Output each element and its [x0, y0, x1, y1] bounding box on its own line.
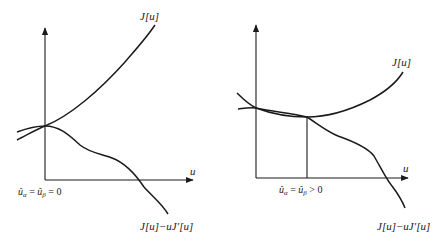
right-panel: J[u] J[u]−uJ′[u] u ûα = ûβ > 0 [237, 25, 430, 232]
left-label-J: J[u] [140, 10, 159, 22]
left-label-u: u [190, 165, 196, 177]
left-label-J-minus-uJprime: J[u]−uJ′[u] [140, 220, 193, 232]
left-curve-J [17, 25, 155, 140]
right-label-J-minus-uJprime: J[u]−uJ′[u] [377, 220, 430, 232]
left-curve-J-minus-uJprime [17, 126, 168, 214]
right-curve-J [237, 72, 403, 117]
diagram-canvas: J[u] J[u]−uJ′[u] u ûα = ûβ = 0 J[u] J[u]… [0, 0, 445, 245]
left-origin-label: ûα = ûβ = 0 [18, 186, 61, 199]
right-origin-label: ûα = ûβ > 0 [279, 184, 322, 197]
right-label-u: u [403, 162, 409, 174]
right-label-J: J[u] [392, 56, 411, 68]
left-panel: J[u] J[u]−uJ′[u] u ûα = ûβ = 0 [17, 10, 196, 232]
